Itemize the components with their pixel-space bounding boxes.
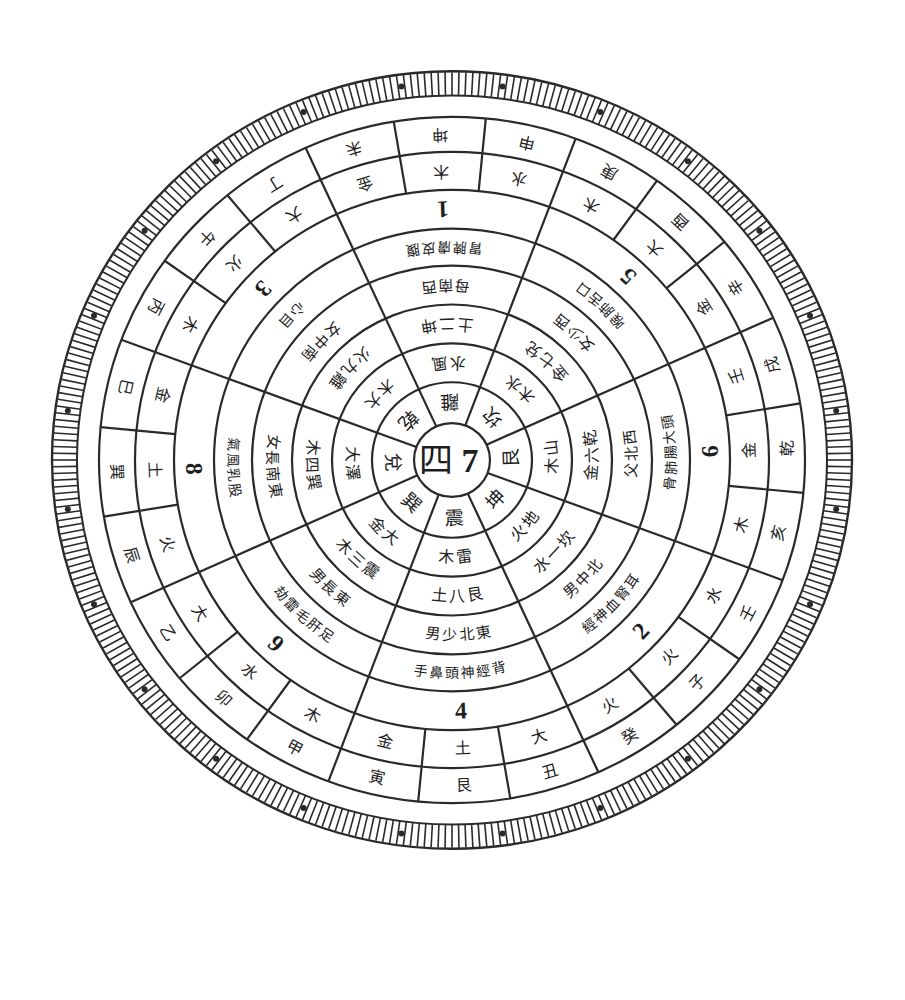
trigram-ring-char: 震 xyxy=(444,506,464,529)
trigram-ring-char: 艮 xyxy=(500,448,523,468)
mountain-element-ring-char: 木 xyxy=(433,162,450,182)
family-ring-char: 長 xyxy=(263,450,281,465)
element-ring-char: 木 xyxy=(542,457,562,474)
trigram-ring-char: 兌 xyxy=(382,452,405,472)
center-label-left: 四 xyxy=(419,440,453,480)
body-ring-char: 腸 xyxy=(663,445,679,460)
body-ring-char: 頭 xyxy=(658,414,676,431)
mountain-element-ring-char: 土 xyxy=(145,462,165,479)
number-ring-char: 坤 xyxy=(420,315,439,336)
number-ring-char: 巽 xyxy=(303,473,324,492)
twenty-four-mountains-ring-char: 艮 xyxy=(455,776,472,796)
compass-root: 離坎艮坤震巽兌乾風水水木山木地火雷木大金澤大大木坤二土兌七金乾六金坎一水艮八土震… xyxy=(52,71,852,849)
tick-mark xyxy=(53,446,77,447)
star-number-ring-char: 1 xyxy=(437,196,450,222)
dot-marker xyxy=(91,313,97,319)
family-ring-char: 南 xyxy=(263,466,282,482)
family-ring-char: 少 xyxy=(442,626,457,644)
dot-marker xyxy=(213,158,219,164)
body-ring-char: 經 xyxy=(475,662,491,680)
body-ring-char: 頭 xyxy=(445,665,459,681)
body-ring-char: 脾 xyxy=(453,239,468,256)
tick-mark xyxy=(827,446,851,447)
twenty-four-mountains-ring-char: 巽 xyxy=(107,463,127,480)
family-ring-char: 男 xyxy=(425,624,442,643)
body-ring-char: 神 xyxy=(460,664,475,681)
body-ring-char: 皮 xyxy=(421,240,437,257)
number-ring-char: 木 xyxy=(302,439,322,457)
number-ring-char: 金 xyxy=(581,464,601,482)
element-ring-char: 木 xyxy=(438,547,455,567)
family-ring-char: 東 xyxy=(265,481,285,499)
number-ring-char: 六 xyxy=(582,447,602,464)
star-number-ring-char: 4 xyxy=(455,697,468,723)
body-ring-char: 大 xyxy=(661,430,678,446)
body-ring-char: 氣 xyxy=(225,437,242,452)
tick-mark xyxy=(827,473,851,474)
family-ring-char: 東 xyxy=(474,622,492,642)
star-number-ring-char: 6 xyxy=(697,445,723,458)
luoshu-compass-diagram: 離坎艮坤震巽兌乾風水水木山木地火雷木大金澤大大木坤二土兌七金乾六金坎一水艮八土震… xyxy=(0,0,905,1000)
body-ring-char: 風 xyxy=(225,453,241,467)
dot-marker xyxy=(398,84,404,90)
dot-marker xyxy=(597,805,603,811)
dot-marker xyxy=(213,756,219,762)
number-ring-char: 四 xyxy=(302,456,322,473)
dot-marker xyxy=(301,805,307,811)
tick-mark xyxy=(465,72,466,95)
twenty-four-mountains-ring-char: 坤 xyxy=(432,125,449,145)
body-ring-char: 手 xyxy=(412,662,428,680)
center-label-right: 7 xyxy=(462,442,479,479)
element-ring-char: 大 xyxy=(342,446,362,463)
family-ring-char: 南 xyxy=(438,276,454,295)
element-ring-char: 風 xyxy=(430,353,448,374)
family-ring-char: 西 xyxy=(420,277,437,297)
dot-marker xyxy=(685,158,691,164)
body-ring-char: 肺 xyxy=(663,461,680,476)
dot-marker xyxy=(142,686,148,692)
tick-mark xyxy=(438,824,439,847)
element-ring-char: 澤 xyxy=(342,463,363,481)
body-ring-char: 乳 xyxy=(225,467,242,482)
number-ring-char: 八 xyxy=(449,586,466,606)
dot-marker xyxy=(142,228,148,234)
dot-marker xyxy=(301,109,307,115)
body-ring-char: 股 xyxy=(226,482,244,498)
family-ring-char: 母 xyxy=(454,276,470,295)
number-ring-char: 土 xyxy=(456,314,474,334)
family-ring-char: 北 xyxy=(623,446,642,462)
dot-marker xyxy=(833,408,839,414)
element-ring-char: 水 xyxy=(449,353,466,373)
dot-marker xyxy=(807,601,813,607)
family-ring-char: 西 xyxy=(621,429,641,446)
dot-marker xyxy=(500,84,506,90)
mountain-element-ring-char: 金 xyxy=(739,442,759,459)
number-ring-char: 艮 xyxy=(465,584,484,605)
center-hub: 四 7 xyxy=(419,440,479,480)
family-ring-char: 女 xyxy=(263,433,282,450)
dot-marker xyxy=(833,506,839,512)
element-ring-char: 雷 xyxy=(455,546,473,567)
body-ring-char: 胃 xyxy=(468,240,484,257)
dot-marker xyxy=(597,109,603,115)
twenty-four-mountains-ring-char: 乾 xyxy=(777,440,797,457)
star-number-ring-char: 8 xyxy=(181,462,207,475)
dot-marker xyxy=(756,686,762,692)
dot-marker xyxy=(398,830,404,836)
body-ring-char: 鼻 xyxy=(429,664,444,681)
dot-marker xyxy=(91,601,97,607)
number-ring-char: 土 xyxy=(430,585,448,605)
dot-marker xyxy=(685,756,691,762)
tick-mark xyxy=(53,473,77,474)
tick-mark xyxy=(465,824,466,847)
tick-mark xyxy=(438,72,439,95)
dot-marker xyxy=(807,313,813,319)
dot-marker xyxy=(65,506,71,512)
family-ring-char: 父 xyxy=(622,462,641,478)
mountain-element-ring-char: 土 xyxy=(454,739,471,759)
trigram-ring-char: 離 xyxy=(440,391,460,414)
body-ring-char: 骨 xyxy=(661,475,678,491)
dot-marker xyxy=(500,830,506,836)
element-ring-char: 山 xyxy=(541,439,562,457)
body-ring-char: 膚 xyxy=(437,239,452,255)
